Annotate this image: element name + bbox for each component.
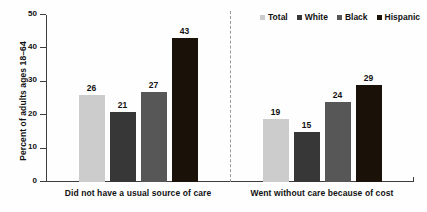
legend-label: Black [345, 12, 368, 22]
bar-value-label: 43 [180, 26, 189, 36]
y-axis-tick-label: 20 [28, 109, 37, 118]
bar: 24 [325, 102, 351, 182]
bar-value-label: 26 [87, 83, 96, 93]
y-axis-tick: 50 [40, 14, 46, 15]
y-axis-tick-label: 0 [33, 176, 37, 185]
y-axis-tick-label: 30 [28, 75, 37, 84]
y-axis-tick-label: 40 [28, 42, 37, 51]
bar-value-label: 15 [302, 120, 311, 130]
x-axis-category-label: Went without care because of cost [251, 188, 394, 198]
y-axis-tick: 20 [40, 114, 46, 115]
bar: 26 [79, 95, 105, 182]
legend-swatch-icon [297, 15, 302, 20]
plot-area: 01020304050 2621274319152429 [46, 15, 414, 182]
y-axis-title: Percent of adults ages 18–64 [18, 16, 28, 186]
bar: 27 [141, 92, 167, 182]
legend-swatch-icon [260, 15, 265, 20]
legend-item: Total [260, 12, 288, 22]
y-axis-tick: 30 [40, 81, 46, 82]
bar: 15 [294, 132, 320, 182]
group-separator-line [230, 11, 231, 182]
y-axis-tick-label: 10 [28, 142, 37, 151]
bar: 43 [172, 38, 198, 182]
y-axis-tick-label: 50 [28, 9, 37, 18]
y-axis-tick: 0 [40, 181, 46, 182]
legend-item: Hispanic [377, 12, 420, 22]
legend-swatch-icon [377, 15, 382, 20]
legend-item: White [297, 12, 328, 22]
bar: 21 [110, 112, 136, 182]
bar-value-label: 29 [364, 73, 373, 83]
legend-label: White [305, 12, 328, 22]
bar: 29 [356, 85, 382, 182]
bar-value-label: 19 [271, 107, 280, 117]
bar-value-label: 21 [118, 100, 127, 110]
legend-item: Black [337, 12, 368, 22]
x-axis-end-tick [413, 177, 414, 182]
bar: 19 [263, 119, 289, 182]
chart-legend: TotalWhiteBlackHispanic [260, 12, 420, 22]
bar-chart: Percent of adults ages 18–64 01020304050… [0, 0, 427, 212]
y-axis-tick: 10 [40, 148, 46, 149]
x-axis-category-label: Did not have a usual source of care [65, 188, 212, 198]
y-axis-tick: 40 [40, 47, 46, 48]
legend-label: Total [268, 12, 288, 22]
legend-label: Hispanic [385, 12, 420, 22]
y-axis-line [46, 15, 47, 182]
legend-swatch-icon [337, 15, 342, 20]
bar-value-label: 27 [149, 80, 158, 90]
bar-value-label: 24 [333, 90, 342, 100]
